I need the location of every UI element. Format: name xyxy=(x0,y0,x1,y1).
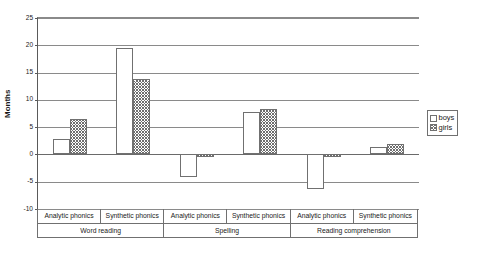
legend-entry-girls[interactable]: girls xyxy=(430,123,454,132)
gridline-25 xyxy=(38,18,419,19)
legend-label-boys: boys xyxy=(439,114,455,122)
plot-area xyxy=(37,17,419,209)
bar-boys-0 xyxy=(53,139,70,154)
group-label-1: Spelling xyxy=(164,224,290,238)
bar-girls-1 xyxy=(133,79,150,155)
y-tick-label-0: 0 xyxy=(11,150,33,157)
y-tick-label-15: 15 xyxy=(11,68,33,75)
gridline-neg5 xyxy=(38,182,419,183)
bar-girls-0 xyxy=(70,119,87,154)
gridline-20 xyxy=(38,45,419,46)
y-tickmark-0 xyxy=(35,154,38,155)
y-tick-label-10: 10 xyxy=(11,95,33,102)
gridline-5 xyxy=(38,127,419,128)
bar-girls-4 xyxy=(324,154,341,157)
y-tickmark-15 xyxy=(35,73,38,74)
gridline-10 xyxy=(38,100,419,101)
bar-boys-3 xyxy=(243,112,260,155)
bar-boys-2 xyxy=(180,154,197,176)
chart-legend: boysgirls xyxy=(427,110,458,136)
subcategory-label-1: Synthetic phonics xyxy=(101,209,164,223)
y-tickmark-5 xyxy=(35,127,38,128)
y-tick-label-neg10: -10 xyxy=(11,205,33,212)
group-label-2: Reading comprehension xyxy=(291,224,417,238)
y-tick-label-neg5: -5 xyxy=(11,177,33,184)
category-row-subcategories: Analytic phonicsSynthetic phonicsAnalyti… xyxy=(38,209,417,223)
gridline-0 xyxy=(38,154,419,155)
bar-girls-2 xyxy=(197,154,214,156)
category-label-table: Analytic phonicsSynthetic phonicsAnalyti… xyxy=(37,209,418,238)
bar-girls-5 xyxy=(387,144,404,154)
y-tickmark-neg5 xyxy=(35,182,38,183)
subcategory-label-0: Analytic phonics xyxy=(38,209,101,223)
bar-girls-3 xyxy=(260,109,277,154)
y-tickmark-20 xyxy=(35,45,38,46)
subcategory-label-3: Synthetic phonics xyxy=(227,209,290,223)
gridline-15 xyxy=(38,73,419,74)
group-label-0: Word reading xyxy=(38,224,164,238)
y-tick-label-25: 25 xyxy=(11,14,33,21)
y-tick-label-5: 5 xyxy=(11,123,33,130)
bar-chart: Months 2520151050-5-10 boysgirls Analyti… xyxy=(0,0,501,256)
hatched-square-icon xyxy=(430,124,437,131)
bar-boys-1 xyxy=(116,48,133,154)
y-tickmark-25 xyxy=(35,18,38,19)
y-tick-label-20: 20 xyxy=(11,41,33,48)
subcategory-label-5: Synthetic phonics xyxy=(354,209,417,223)
legend-entry-boys[interactable]: boys xyxy=(430,114,454,123)
subcategory-label-4: Analytic phonics xyxy=(291,209,354,223)
bar-boys-4 xyxy=(307,154,324,188)
y-tickmark-10 xyxy=(35,100,38,101)
subcategory-label-2: Analytic phonics xyxy=(164,209,227,223)
y-axis-tick-labels: 2520151050-5-10 xyxy=(14,0,36,256)
bar-boys-5 xyxy=(370,147,387,154)
legend-label-girls: girls xyxy=(439,124,453,132)
category-row-groups: Word readingSpellingReading comprehensio… xyxy=(38,223,417,238)
open-square-icon xyxy=(430,115,437,122)
